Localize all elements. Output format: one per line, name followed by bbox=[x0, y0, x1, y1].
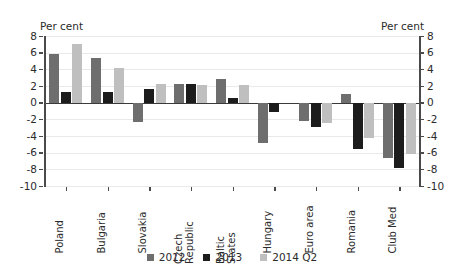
y-tick-left bbox=[39, 86, 43, 88]
bar bbox=[258, 103, 268, 144]
bar-group bbox=[91, 36, 124, 186]
bar bbox=[364, 103, 374, 138]
y-tick-left bbox=[39, 102, 43, 104]
legend: 201220132014 Q2 bbox=[0, 252, 464, 263]
y-tick-label-right: -8 bbox=[427, 164, 437, 174]
legend-item[interactable]: 2013 bbox=[203, 252, 242, 263]
y-tick-right bbox=[420, 136, 424, 138]
x-axis-label: Poland bbox=[54, 220, 65, 253]
bar-group bbox=[383, 36, 416, 186]
legend-swatch-icon bbox=[147, 254, 154, 261]
x-tick bbox=[358, 187, 360, 191]
x-tick bbox=[399, 187, 401, 191]
left-axis-title: Per cent bbox=[40, 20, 83, 32]
y-tick-label-left: 0 bbox=[14, 97, 37, 107]
bar-group bbox=[49, 36, 82, 186]
y-tick-left bbox=[39, 69, 43, 71]
y-tick-label-right: 0 bbox=[427, 97, 434, 107]
bar bbox=[406, 103, 416, 155]
x-tick bbox=[66, 187, 68, 191]
left-axis bbox=[44, 36, 46, 187]
y-tick-label-left: 2 bbox=[14, 81, 37, 91]
y-tick-right bbox=[420, 69, 424, 71]
bar bbox=[133, 103, 143, 122]
legend-swatch-icon bbox=[203, 254, 210, 261]
bar bbox=[103, 92, 113, 103]
bar bbox=[216, 79, 226, 102]
bar bbox=[353, 103, 363, 150]
x-axis-label: Slovakia bbox=[138, 212, 149, 254]
bar bbox=[322, 103, 332, 123]
bar bbox=[269, 103, 279, 112]
bar bbox=[311, 103, 321, 127]
y-tick-right bbox=[420, 36, 424, 38]
y-tick-left bbox=[39, 136, 43, 138]
bar bbox=[228, 98, 238, 103]
y-tick-label-right: 8 bbox=[427, 31, 434, 41]
bar bbox=[383, 103, 393, 158]
y-tick-label-right: -6 bbox=[427, 147, 437, 157]
bar bbox=[114, 68, 124, 103]
y-tick-left bbox=[39, 169, 43, 171]
bar bbox=[156, 84, 166, 102]
bar bbox=[239, 85, 249, 103]
y-tick-label-left: -4 bbox=[14, 131, 37, 141]
y-tick-label-left: -10 bbox=[14, 181, 37, 191]
bar bbox=[341, 94, 351, 103]
y-tick-label-right: -4 bbox=[427, 131, 437, 141]
bar-group bbox=[174, 36, 207, 186]
x-axis-label: Euro area bbox=[304, 205, 315, 253]
right-axis-title: Per cent bbox=[381, 20, 424, 32]
y-tick-right bbox=[420, 152, 424, 154]
y-tick-label-left: 4 bbox=[14, 64, 37, 74]
x-axis-label: Club Med bbox=[388, 207, 399, 254]
x-tick bbox=[191, 187, 193, 191]
bar bbox=[144, 89, 154, 103]
bar-group bbox=[216, 36, 249, 186]
y-tick-label-left: -2 bbox=[14, 114, 37, 124]
right-axis bbox=[419, 36, 421, 187]
plot-area bbox=[45, 36, 420, 186]
bar-group bbox=[299, 36, 332, 186]
x-tick bbox=[108, 187, 110, 191]
legend-label: 2012 bbox=[159, 252, 186, 263]
y-tick-right bbox=[420, 119, 424, 121]
x-tick bbox=[233, 187, 235, 191]
y-tick-label-right: -10 bbox=[427, 181, 444, 191]
y-tick-right bbox=[420, 86, 424, 88]
y-tick-left bbox=[39, 152, 43, 154]
y-tick-left bbox=[39, 52, 43, 54]
bar-group bbox=[258, 36, 291, 186]
y-tick-left bbox=[39, 119, 43, 121]
bar bbox=[174, 84, 184, 102]
y-tick-label-right: 2 bbox=[427, 81, 434, 91]
y-tick-label-left: 8 bbox=[14, 31, 37, 41]
legend-swatch-icon bbox=[260, 254, 267, 261]
bar-group bbox=[133, 36, 166, 186]
bar bbox=[394, 103, 404, 168]
y-tick-label-right: 4 bbox=[427, 64, 434, 74]
legend-item[interactable]: 2012 bbox=[147, 252, 186, 263]
y-tick-label-left: -6 bbox=[14, 147, 37, 157]
y-tick-label-left: -8 bbox=[14, 164, 37, 174]
y-tick-left bbox=[39, 186, 43, 188]
bar bbox=[186, 84, 196, 102]
y-tick-left bbox=[39, 36, 43, 38]
y-tick-label-right: 6 bbox=[427, 47, 434, 57]
bar bbox=[61, 92, 71, 103]
bar-group bbox=[341, 36, 374, 186]
y-tick-right bbox=[420, 186, 424, 188]
x-axis-label: Romania bbox=[346, 210, 357, 254]
legend-label: 2013 bbox=[215, 252, 242, 263]
x-tick bbox=[316, 187, 318, 191]
y-tick-right bbox=[420, 102, 424, 104]
legend-item[interactable]: 2014 Q2 bbox=[260, 252, 317, 263]
y-tick-right bbox=[420, 169, 424, 171]
bar bbox=[91, 58, 101, 103]
x-tick bbox=[274, 187, 276, 191]
bar bbox=[299, 103, 309, 121]
y-tick-label-right: -2 bbox=[427, 114, 437, 124]
legend-label: 2014 Q2 bbox=[272, 252, 317, 263]
bar bbox=[49, 54, 59, 102]
bar-chart: Per cent Per cent 8866442200-2-2-4-4-6-6… bbox=[0, 0, 464, 275]
